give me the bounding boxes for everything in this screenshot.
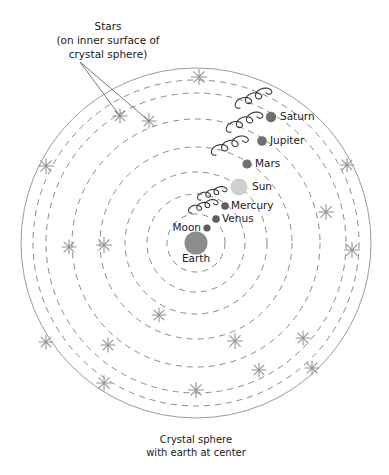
mercury-label: Mercury bbox=[231, 199, 274, 211]
moon-disc bbox=[203, 224, 210, 231]
diagram-canvas: EarthMoonVenusMercurySunMarsJupiterSatur… bbox=[0, 0, 389, 475]
star-icon bbox=[101, 338, 115, 352]
venus-label: Venus bbox=[222, 212, 254, 224]
earth-label: Earth bbox=[182, 252, 210, 264]
figure-caption: Crystal sphere with earth at center bbox=[146, 434, 247, 458]
star-icon bbox=[97, 238, 112, 253]
star-icon bbox=[340, 158, 354, 172]
saturn-label: Saturn bbox=[280, 110, 315, 122]
star-icon bbox=[228, 334, 243, 349]
epicycles-layer bbox=[187, 82, 272, 218]
star-icon bbox=[319, 205, 334, 220]
star-icon bbox=[192, 70, 207, 85]
stars-leader-line-1 bbox=[80, 62, 120, 116]
venus-disc bbox=[212, 215, 220, 223]
mars-label: Mars bbox=[255, 157, 280, 169]
star-icon bbox=[252, 363, 266, 377]
mars-disc bbox=[242, 159, 251, 168]
sun-label: Sun bbox=[252, 180, 272, 192]
ptolemaic-diagram: EarthMoonVenusMercurySunMarsJupiterSatur… bbox=[0, 0, 389, 475]
stars-annotation-line-2: (on inner surface of bbox=[56, 34, 159, 46]
mercury-epicycle bbox=[196, 182, 227, 205]
jupiter-disc bbox=[257, 136, 267, 146]
stars-annotation-text: Stars (on inner surface of crystal spher… bbox=[56, 20, 159, 60]
star-icon bbox=[152, 308, 166, 322]
saturn-disc bbox=[266, 112, 276, 122]
star-icon bbox=[39, 159, 54, 174]
star-icon bbox=[296, 331, 310, 345]
star-icon bbox=[345, 243, 360, 258]
stars-annotation-line-1: Stars bbox=[94, 20, 121, 32]
sun-disc bbox=[231, 179, 248, 196]
star-icon bbox=[189, 383, 204, 398]
jupiter-label: Jupiter bbox=[269, 134, 305, 146]
caption-line-2: with earth at center bbox=[146, 447, 247, 458]
star-icon bbox=[62, 240, 76, 254]
caption-line-1: Crystal sphere bbox=[160, 434, 232, 445]
star-icon bbox=[305, 361, 319, 375]
mercury-disc bbox=[221, 202, 229, 210]
star-icon bbox=[97, 376, 112, 391]
saturn-epicycle bbox=[233, 82, 272, 114]
mars-epicycle bbox=[210, 129, 250, 161]
annotation-leader-lines bbox=[80, 62, 149, 121]
stars-leader-line-2 bbox=[80, 62, 149, 121]
jupiter-epicycle bbox=[224, 106, 263, 138]
stars-annotation-line-3: crystal sphere) bbox=[69, 48, 147, 60]
moon-label: Moon bbox=[172, 221, 201, 233]
star-icon bbox=[39, 335, 53, 349]
